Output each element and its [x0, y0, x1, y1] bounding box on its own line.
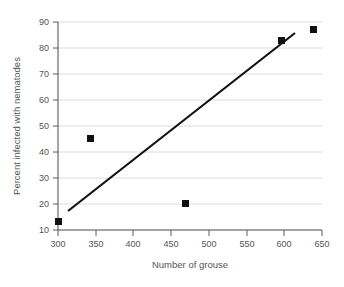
- x-tick-label: 350: [88, 239, 103, 249]
- y-tick-label: 30: [39, 173, 49, 183]
- y-tick-marks: [53, 22, 58, 230]
- y-tick-label: 70: [39, 69, 49, 79]
- x-axis-title: Number of grouse: [152, 259, 228, 270]
- x-tick-label: 450: [163, 239, 178, 249]
- x-tick-label: 650: [314, 239, 329, 249]
- x-tick-marks: [58, 230, 322, 236]
- x-tick-label: 550: [239, 239, 254, 249]
- data-point-marker: [278, 37, 285, 44]
- y-tick-label: 20: [39, 199, 49, 209]
- x-tick-labels: 300 350 400 450 500 550 600 650: [50, 239, 329, 249]
- gridlines: [58, 22, 322, 230]
- y-axis-title: Percent infected with nematodes: [11, 57, 22, 195]
- x-tick-label: 300: [50, 239, 65, 249]
- y-tick-labels: 90 80 70 60 50 40 30 20 10: [39, 17, 49, 235]
- y-tick-label: 60: [39, 95, 49, 105]
- data-point-marker: [87, 135, 94, 142]
- trend-line: [68, 33, 295, 211]
- y-tick-label: 50: [39, 121, 49, 131]
- y-tick-label: 90: [39, 17, 49, 27]
- data-point-marker: [310, 26, 317, 33]
- x-tick-label: 400: [125, 239, 140, 249]
- data-point-marker: [55, 218, 62, 225]
- y-tick-label: 10: [39, 225, 49, 235]
- data-points: [55, 26, 317, 225]
- y-tick-label: 80: [39, 43, 49, 53]
- chart-figure: 90 80 70 60 50 40 30 20 10 300 350 400 4…: [0, 0, 344, 287]
- data-point-marker: [182, 200, 189, 207]
- x-tick-label: 500: [201, 239, 216, 249]
- y-tick-label: 40: [39, 147, 49, 157]
- x-tick-label: 600: [276, 239, 291, 249]
- scatter-plot: 90 80 70 60 50 40 30 20 10 300 350 400 4…: [0, 0, 344, 287]
